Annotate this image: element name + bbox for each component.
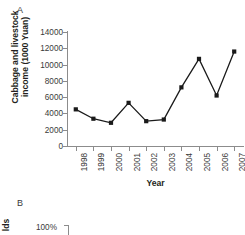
panel-b-chart: B lds 100%: [0, 196, 245, 235]
panel-b-y-axis-title-text: lds: [1, 205, 11, 235]
data-point-marker: [109, 121, 113, 125]
data-point-marker: [74, 107, 78, 111]
data-series-plot: [0, 0, 245, 196]
panel-b-y-tick-label: 100%: [36, 223, 57, 232]
data-point-marker: [162, 117, 166, 121]
data-point-marker: [91, 117, 95, 121]
data-point-marker: [127, 101, 131, 105]
data-point-marker: [179, 85, 183, 89]
panel-b-y-axis-line: [68, 225, 69, 235]
panel-b-y-axis-title: lds: [1, 205, 15, 235]
panel-a-chart: A Cabbage and livestock income (1000 Yua…: [0, 0, 245, 196]
series-line: [76, 52, 234, 123]
x-axis-title: Year: [67, 178, 244, 188]
data-point-marker: [144, 119, 148, 123]
panel-b-label: B: [17, 198, 23, 208]
data-point-marker: [232, 49, 236, 53]
data-point-marker: [215, 93, 219, 97]
data-point-marker: [197, 57, 201, 61]
